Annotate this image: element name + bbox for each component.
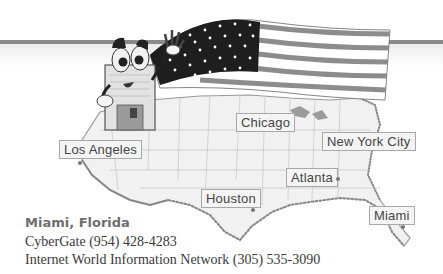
city-marker-houston: [251, 208, 255, 212]
us-flag-icon: [150, 19, 390, 100]
city-marker-atlanta: [336, 177, 340, 181]
provider-line: Internet World Information Network (305)…: [25, 252, 320, 268]
city-label-chicago[interactable]: Chicago: [236, 113, 295, 132]
city-marker-los-angeles: [78, 161, 82, 165]
city-label-los-angeles[interactable]: Los Angeles: [59, 140, 142, 159]
provider-line: CyberGate (954) 428-4283: [25, 234, 177, 250]
city-label-new-york-city[interactable]: New York City: [322, 132, 416, 151]
city-marker-miami: [401, 225, 405, 229]
city-label-houston[interactable]: Houston: [201, 189, 261, 208]
city-label-atlanta[interactable]: Atlanta: [286, 168, 338, 187]
city-label-miami[interactable]: Miami: [369, 206, 415, 225]
listing-title: Miami, Florida: [25, 215, 130, 230]
